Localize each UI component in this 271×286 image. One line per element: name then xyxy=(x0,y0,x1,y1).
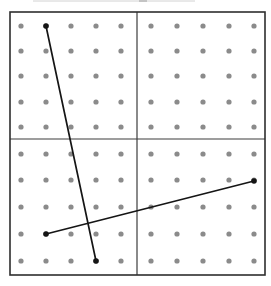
grid-dot xyxy=(251,151,256,156)
grid-dot xyxy=(226,48,231,53)
grid-dot xyxy=(43,99,48,104)
segment-2-shallow-endpoint-end xyxy=(251,178,257,184)
grid-dot xyxy=(43,151,48,156)
grid-dot xyxy=(18,73,23,78)
grid-dot xyxy=(251,204,256,209)
grid-dot xyxy=(118,204,123,209)
grid-dot xyxy=(200,151,205,156)
grid-dot xyxy=(68,231,73,236)
grid-dot xyxy=(93,124,98,129)
grid-dot xyxy=(93,23,98,28)
grid-dot xyxy=(118,23,123,28)
segment-1-steep-endpoint-end xyxy=(93,258,99,264)
grid-dot xyxy=(200,124,205,129)
grid-dot xyxy=(68,23,73,28)
grid-dot xyxy=(226,204,231,209)
grid-dot xyxy=(200,23,205,28)
grid-dot xyxy=(118,258,123,263)
grid-dot xyxy=(43,48,48,53)
grid-dot xyxy=(174,204,179,209)
grid-dot xyxy=(174,48,179,53)
grid-dot xyxy=(148,177,153,182)
grid-dot xyxy=(226,151,231,156)
grid-dot xyxy=(68,177,73,182)
grid-dot xyxy=(251,48,256,53)
grid-dot xyxy=(148,48,153,53)
grid-dot xyxy=(200,177,205,182)
grid-dot xyxy=(93,231,98,236)
grid-dot xyxy=(93,99,98,104)
grid-dot xyxy=(43,258,48,263)
grid-dot xyxy=(148,73,153,78)
grid-dot xyxy=(148,258,153,263)
grid-dot xyxy=(174,258,179,263)
grid-dot xyxy=(226,177,231,182)
grid-dot xyxy=(251,231,256,236)
grid-dot xyxy=(118,177,123,182)
grid-dot xyxy=(68,124,73,129)
grid-dot xyxy=(174,99,179,104)
grid-dot xyxy=(43,204,48,209)
grid-dot xyxy=(251,73,256,78)
grid-dot xyxy=(226,124,231,129)
grid-dot xyxy=(118,99,123,104)
grid-dot xyxy=(174,73,179,78)
grid-dot xyxy=(68,48,73,53)
grid-dot xyxy=(18,204,23,209)
grid-dot xyxy=(200,48,205,53)
geoboard-figure xyxy=(0,0,271,286)
grid-dot xyxy=(118,48,123,53)
grid-dot xyxy=(148,231,153,236)
grid-dot xyxy=(148,151,153,156)
grid-dot xyxy=(93,177,98,182)
grid-dot xyxy=(93,204,98,209)
grid-dot xyxy=(226,258,231,263)
grid-dot xyxy=(18,124,23,129)
grid-dot xyxy=(68,204,73,209)
grid-dot xyxy=(200,258,205,263)
grid-dot xyxy=(148,124,153,129)
grid-dot xyxy=(226,231,231,236)
grid-dot xyxy=(174,231,179,236)
segment-1-steep-endpoint-start xyxy=(43,23,49,29)
grid-dot xyxy=(93,48,98,53)
grid-dot xyxy=(68,99,73,104)
grid-dot xyxy=(18,99,23,104)
grid-dot xyxy=(68,73,73,78)
grid-dot xyxy=(118,231,123,236)
grid-dot xyxy=(226,73,231,78)
grid-dot xyxy=(200,231,205,236)
grid-dot xyxy=(148,23,153,28)
grid-dot xyxy=(251,124,256,129)
grid-dot xyxy=(200,73,205,78)
grid-dot xyxy=(200,204,205,209)
grid-dot xyxy=(18,151,23,156)
grid-dot xyxy=(226,99,231,104)
grid-dot xyxy=(148,99,153,104)
grid-dot xyxy=(174,177,179,182)
grid-dot xyxy=(174,151,179,156)
grid-dot xyxy=(118,73,123,78)
grid-dot xyxy=(43,177,48,182)
figure-svg xyxy=(0,0,271,286)
grid-dot xyxy=(18,258,23,263)
grid-dot xyxy=(251,258,256,263)
grid-dot xyxy=(251,23,256,28)
grid-dot xyxy=(251,99,256,104)
grid-dot xyxy=(118,124,123,129)
grid-dot xyxy=(43,73,48,78)
grid-dot xyxy=(226,23,231,28)
grid-dot xyxy=(18,48,23,53)
grid-dot xyxy=(18,231,23,236)
grid-dot xyxy=(174,124,179,129)
grid-dot xyxy=(18,23,23,28)
grid-dot xyxy=(43,124,48,129)
grid-dot xyxy=(118,151,123,156)
grid-dot xyxy=(93,73,98,78)
grid-dot xyxy=(18,177,23,182)
grid-dot xyxy=(68,258,73,263)
grid-dot xyxy=(200,99,205,104)
segment-2-shallow-endpoint-start xyxy=(43,231,49,237)
grid-dot xyxy=(93,151,98,156)
grid-dot xyxy=(174,23,179,28)
